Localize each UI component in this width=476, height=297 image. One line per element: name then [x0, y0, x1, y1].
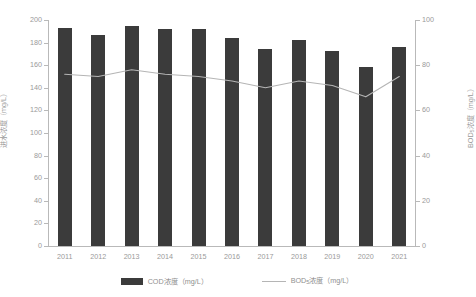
- legend-item-bod5: BOD5浓度（mg/L）: [262, 276, 354, 286]
- x-axis-label-2013: 2013: [115, 252, 148, 261]
- legend-bar-swatch-icon: [121, 278, 143, 285]
- y-axis-left-tick-label: 100: [30, 129, 42, 137]
- y-axis-right-tick: [416, 246, 420, 247]
- y-axis-right-title-tail: 浓度（mg/L）: [466, 85, 475, 129]
- x-axis-label-2014: 2014: [148, 252, 181, 261]
- y-axis-right-tick-label: 20: [422, 197, 430, 205]
- y-axis-left-tick-label: 180: [30, 39, 42, 47]
- y-axis-right-tick: [416, 156, 420, 157]
- plot-area: 020406080100120140160180200 020406080100…: [48, 20, 416, 247]
- y-axis-left-tick-label: 140: [30, 84, 42, 92]
- y-axis-right-tick-label: 80: [422, 61, 430, 69]
- y-axis-right-tick-label: 40: [422, 152, 430, 160]
- y-axis-left-tick-label: 200: [30, 16, 42, 24]
- legend-label-bod5-tail: 浓度（mg/L）: [309, 276, 353, 285]
- x-axis-label-2012: 2012: [81, 252, 114, 261]
- y-axis-left-tick-label: 60: [34, 174, 42, 182]
- y-axis-right-title: BOD5浓度（mg/L）: [466, 85, 476, 148]
- bod5-polyline: [65, 70, 400, 97]
- y-axis-left-tick-label: 0: [38, 242, 42, 250]
- legend-line-swatch-icon: [262, 278, 286, 285]
- y-axis-right-tick-label: 100: [422, 16, 434, 24]
- legend-label-bod5: BOD5浓度（mg/L）: [291, 276, 354, 286]
- y-axis-right-tick: [416, 65, 420, 66]
- x-axis-label-2016: 2016: [215, 252, 248, 261]
- y-axis-right-tick-label: 0: [422, 242, 426, 250]
- x-axis-label-2019: 2019: [316, 252, 349, 261]
- x-axis-label-2017: 2017: [249, 252, 282, 261]
- legend-label-bod5-main: BOD: [291, 276, 307, 285]
- legend-label-cod: COD浓度（mg/L）: [148, 277, 208, 286]
- y-axis-right-tick: [416, 110, 420, 111]
- y-axis-left-title: 进水浓度（mg/L）: [0, 90, 8, 148]
- y-axis-right-title-subscript: 5: [469, 129, 475, 132]
- y-axis-left-tick-label: 80: [34, 152, 42, 160]
- y-axis-right-tick: [416, 20, 420, 21]
- legend-item-cod: COD浓度（mg/L）: [121, 277, 208, 286]
- legend-label-bod5-subscript: 5: [306, 279, 309, 285]
- line-series-svg: [48, 20, 416, 247]
- y-axis-left-tick-label: 40: [34, 197, 42, 205]
- y-axis-right-tick-label: 60: [422, 106, 430, 114]
- x-axis-label-2021: 2021: [383, 252, 416, 261]
- x-axis-label-2015: 2015: [182, 252, 215, 261]
- x-axis-label-2018: 2018: [282, 252, 315, 261]
- y-axis-left-tick-label: 160: [30, 61, 42, 69]
- y-axis-left-tick-label: 120: [30, 106, 42, 114]
- y-axis-right-title-main: BOD: [466, 132, 475, 148]
- x-axis-label-2020: 2020: [349, 252, 382, 261]
- line-series-bod5: [48, 20, 416, 247]
- y-axis-left-tick-label: 20: [34, 219, 42, 227]
- x-axis-label-2011: 2011: [48, 252, 81, 261]
- chart-legend: COD浓度（mg/L） BOD5浓度（mg/L）: [0, 272, 474, 290]
- y-axis-right-tick: [416, 201, 420, 202]
